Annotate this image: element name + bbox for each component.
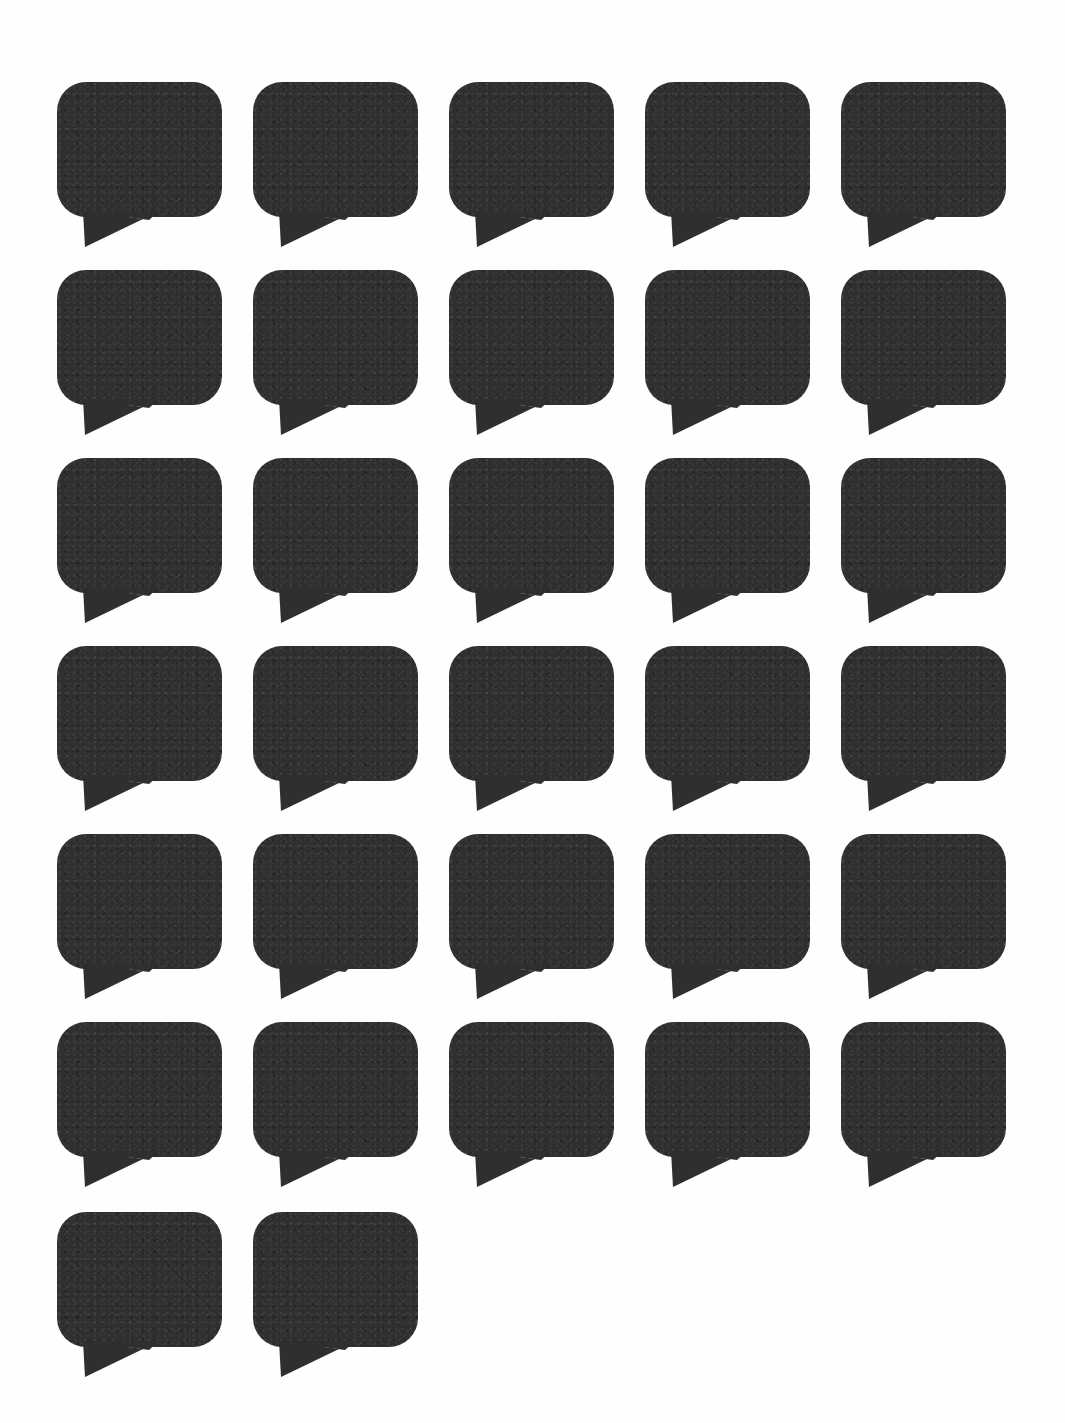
speech-bubble[interactable] <box>841 1022 1006 1157</box>
bubble-row <box>0 1212 1065 1377</box>
speech-bubble-body <box>253 270 418 405</box>
speech-bubble[interactable] <box>449 458 614 593</box>
speech-bubble[interactable] <box>57 646 222 781</box>
speech-bubble[interactable] <box>253 458 418 593</box>
speech-bubble-tail-icon <box>475 399 551 435</box>
speech-bubble[interactable] <box>449 82 614 217</box>
speech-bubble-body <box>57 1212 222 1347</box>
speech-bubble[interactable] <box>57 834 222 969</box>
speech-bubble-tail-icon <box>867 587 943 623</box>
speech-bubble-tail-icon <box>83 399 159 435</box>
speech-bubble-tail-icon <box>279 587 355 623</box>
speech-bubble-tail-icon <box>83 587 159 623</box>
speech-bubble[interactable] <box>841 82 1006 217</box>
speech-bubble[interactable] <box>449 646 614 781</box>
speech-bubble-body <box>449 646 614 781</box>
speech-bubble-body <box>645 1022 810 1157</box>
speech-bubble[interactable] <box>57 270 222 405</box>
speech-bubble[interactable] <box>57 1022 222 1157</box>
speech-bubble-tail-icon <box>867 399 943 435</box>
speech-bubble-body <box>253 458 418 593</box>
speech-bubble-tail-icon <box>475 963 551 999</box>
speech-bubble-tail-icon <box>671 211 747 247</box>
bubble-row <box>0 646 1065 811</box>
bubble-row <box>0 1022 1065 1187</box>
speech-bubble[interactable] <box>449 834 614 969</box>
speech-bubble[interactable] <box>449 270 614 405</box>
speech-bubble-tail-icon <box>475 1151 551 1187</box>
speech-bubble-tail-icon <box>671 1151 747 1187</box>
speech-bubble-tail-icon <box>279 775 355 811</box>
speech-bubble-tail-icon <box>83 963 159 999</box>
speech-bubble-tail-icon <box>83 1341 159 1377</box>
speech-bubble-body <box>253 646 418 781</box>
speech-bubble[interactable] <box>645 82 810 217</box>
speech-bubble-body <box>841 646 1006 781</box>
speech-bubble-body <box>253 834 418 969</box>
speech-bubble-body <box>449 1022 614 1157</box>
speech-bubble-body <box>841 1022 1006 1157</box>
speech-bubble-tail-icon <box>475 587 551 623</box>
speech-bubble[interactable] <box>645 458 810 593</box>
speech-bubble[interactable] <box>253 82 418 217</box>
speech-bubble-tail-icon <box>671 587 747 623</box>
speech-bubble-body <box>57 646 222 781</box>
bubble-row <box>0 270 1065 435</box>
speech-bubble-tail-icon <box>279 211 355 247</box>
speech-bubble-body <box>841 458 1006 593</box>
speech-bubble-body <box>645 646 810 781</box>
speech-bubble-tail-icon <box>867 211 943 247</box>
speech-bubble-body <box>253 1212 418 1347</box>
speech-bubble[interactable] <box>841 270 1006 405</box>
speech-bubble-body <box>253 82 418 217</box>
speech-bubble-tail-icon <box>475 211 551 247</box>
speech-bubble-body <box>57 270 222 405</box>
speech-bubble-tail-icon <box>83 1151 159 1187</box>
speech-bubble-tail-icon <box>279 963 355 999</box>
speech-bubble[interactable] <box>57 82 222 217</box>
speech-bubble[interactable] <box>841 646 1006 781</box>
speech-bubble[interactable] <box>57 1212 222 1347</box>
speech-bubble-body <box>645 458 810 593</box>
speech-bubble[interactable] <box>253 1022 418 1157</box>
speech-bubble-tail-icon <box>867 1151 943 1187</box>
bubble-row <box>0 82 1065 247</box>
speech-bubble-tail-icon <box>279 399 355 435</box>
speech-bubble[interactable] <box>253 646 418 781</box>
bubble-row <box>0 458 1065 623</box>
speech-bubble-body <box>449 82 614 217</box>
speech-bubble[interactable] <box>253 1212 418 1347</box>
speech-bubble[interactable] <box>645 270 810 405</box>
speech-bubble[interactable] <box>645 834 810 969</box>
speech-bubble-body <box>253 1022 418 1157</box>
speech-bubble-body <box>841 834 1006 969</box>
speech-bubble-tail-icon <box>671 399 747 435</box>
speech-bubble-tail-icon <box>279 1341 355 1377</box>
speech-bubble-tail-icon <box>83 211 159 247</box>
speech-bubble-tail-icon <box>475 775 551 811</box>
speech-bubble-tail-icon <box>671 775 747 811</box>
speech-bubble-body <box>645 82 810 217</box>
speech-bubble[interactable] <box>57 458 222 593</box>
speech-bubble[interactable] <box>253 834 418 969</box>
speech-bubble-body <box>449 834 614 969</box>
speech-bubble[interactable] <box>253 270 418 405</box>
speech-bubble[interactable] <box>449 1022 614 1157</box>
speech-bubble-body <box>449 270 614 405</box>
speech-bubble-tail-icon <box>867 775 943 811</box>
speech-bubble[interactable] <box>645 646 810 781</box>
bubble-row <box>0 834 1065 999</box>
speech-bubble-tail-icon <box>671 963 747 999</box>
speech-bubble[interactable] <box>645 1022 810 1157</box>
speech-bubble-body <box>841 270 1006 405</box>
speech-bubble-body <box>645 834 810 969</box>
speech-bubble[interactable] <box>841 834 1006 969</box>
speech-bubble-tail-icon <box>279 1151 355 1187</box>
speech-bubble-body <box>57 1022 222 1157</box>
speech-bubble[interactable] <box>841 458 1006 593</box>
speech-bubble-tail-icon <box>867 963 943 999</box>
speech-bubble-body <box>57 834 222 969</box>
speech-bubble-body <box>57 458 222 593</box>
speech-bubble-body <box>57 82 222 217</box>
speech-bubble-body <box>449 458 614 593</box>
